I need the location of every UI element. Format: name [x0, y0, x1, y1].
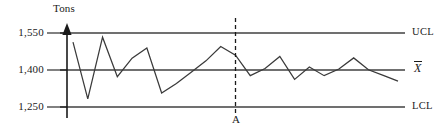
chart-canvas	[0, 0, 441, 133]
control-limit-lines	[60, 33, 405, 107]
y-tick-label-1250: 1,250	[2, 100, 44, 112]
y-axis-title: Tons	[53, 2, 75, 14]
event-marker-label: A	[232, 113, 240, 125]
y-tick-marks	[47, 33, 67, 107]
center-line-label: X	[414, 61, 422, 76]
y-tick-label-1550: 1,550	[2, 26, 44, 38]
xbar-overbar	[414, 61, 422, 62]
y-tick-label-1400: 1,400	[2, 63, 44, 75]
control-chart: Tons 1,550 1,400 1,250 UCL X LCL A	[0, 0, 441, 133]
lcl-label: LCL	[412, 100, 433, 111]
ucl-label: UCL	[412, 26, 434, 37]
